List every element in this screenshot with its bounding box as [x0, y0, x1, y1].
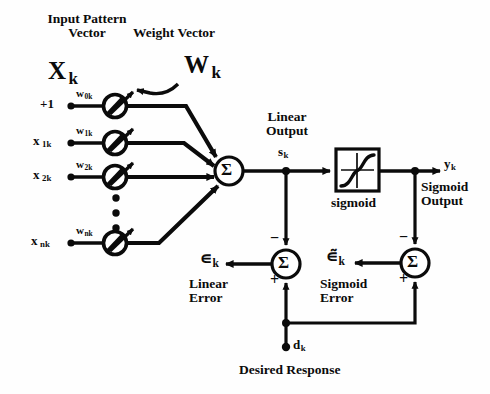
summer-glyph-linear-error: Σ	[278, 254, 289, 272]
weight-label-bias-letter: w	[76, 87, 84, 99]
sigmoid-error-plus-sign: +	[399, 271, 408, 288]
linear-error-symbol: ∊k	[200, 250, 219, 270]
desired-response-symbol: dk	[293, 338, 306, 354]
weight-label-bias: w0k	[76, 88, 92, 101]
weight-vector-caption: Weight Vector	[133, 26, 215, 40]
desired-branch-dot	[282, 319, 290, 327]
ellipsis-dot-1	[112, 194, 119, 201]
weight-label-xn: wnk	[76, 225, 93, 238]
linear-output-symbol: sk	[278, 145, 288, 161]
weighted-path-bias	[127, 106, 216, 157]
input-signal-xn-sub: nk	[38, 239, 50, 249]
input-signal-bias-text: +1	[40, 96, 54, 111]
desired-response-caption: Desired Response	[239, 363, 340, 377]
sigmoid-error-epsilon: ∊̃	[326, 247, 338, 266]
ellipsis-dot-2	[112, 209, 119, 216]
linear-error-minus-sign: −	[270, 230, 279, 247]
sigmoid-output-line1: Sigmoid	[421, 180, 468, 194]
weight-label-x2-sub: 2k	[84, 163, 92, 172]
linear-output-line2: Output	[256, 124, 318, 138]
sigmoid-box-caption: sigmoid	[331, 196, 376, 210]
input-vector-sub: k	[66, 69, 78, 88]
sigmoid-error-sub: k	[338, 255, 345, 268]
sigmoid-output-letter: y	[444, 156, 451, 171]
sigmoid-output-symbol: yk	[444, 157, 456, 173]
input-signal-xn: xnk	[31, 234, 50, 250]
input-dot-bias	[67, 102, 74, 109]
linear-error-sub: k	[212, 257, 219, 270]
input-signal-x2: x2k	[33, 168, 51, 184]
weighted-path-x1	[127, 143, 214, 166]
weight-label-bias-sub: 0k	[84, 92, 92, 101]
linear-error-line2: Error	[189, 291, 228, 305]
linear-output-caption: Linear Output	[256, 110, 318, 139]
sigmoid-output-line2: Output	[421, 194, 468, 208]
linear-error-caption: Linear Error	[189, 277, 228, 306]
linear-error-plus-sign: +	[270, 272, 279, 289]
ellipsis-dots	[112, 194, 119, 231]
input-signal-bias: +1	[40, 97, 54, 111]
sigmoid-error-symbol: ∊̃k	[326, 248, 345, 268]
weight-label-x2-letter: w	[76, 158, 84, 170]
weight-vector-sub: k	[209, 63, 221, 82]
weight-label-x1-letter: w	[76, 124, 84, 136]
weighted-paths-group	[127, 106, 218, 243]
input-dot-xn	[67, 239, 74, 246]
input-dot-x1	[67, 139, 74, 146]
ellipsis-dot-3	[112, 224, 119, 231]
input-signal-x1: x1k	[33, 134, 51, 150]
sigmoid-output-caption: Sigmoid Output	[421, 180, 468, 209]
neural-network-diagram: Input Pattern Vector Xk Weight Vector Wk…	[0, 0, 490, 394]
linear-error-line1: Linear	[189, 277, 228, 291]
input-signal-x1-sub: 1k	[40, 139, 52, 149]
desired-terminal-dot	[282, 343, 290, 351]
input-signal-x2-sub: 2k	[40, 173, 52, 183]
sigmoid-error-minus-sign: −	[399, 229, 408, 246]
weight-label-x2: w2k	[76, 159, 92, 172]
summer-glyph-main: Σ	[221, 161, 232, 179]
input-dot-x2	[67, 173, 74, 180]
linear-output-line1: Linear	[256, 110, 318, 124]
input-vector-symbol: Xk	[48, 58, 78, 88]
weighted-path-xn	[127, 186, 218, 243]
desired-response-sub: k	[300, 343, 305, 353]
weight-vector-letter: W	[184, 51, 209, 78]
sigmoid-output-sub: k	[451, 162, 456, 172]
input-vector-letter: X	[48, 57, 66, 84]
sigmoid-error-line1: Sigmoid	[320, 277, 367, 291]
linear-error-epsilon: ∊	[200, 249, 212, 268]
input-signal-xn-text: x	[31, 233, 38, 248]
summer-glyph-sigmoid-error: Σ	[407, 253, 418, 271]
linear-output-sub: k	[283, 150, 288, 160]
weight-vector-symbol: Wk	[184, 52, 221, 82]
weight-label-x1-sub: 1k	[84, 129, 92, 138]
sigmoid-error-line2: Error	[320, 291, 367, 305]
weight-label-xn-sub: nk	[84, 229, 93, 238]
input-terminal-dots	[67, 102, 74, 246]
sigmoid-error-caption: Sigmoid Error	[320, 277, 367, 306]
input-signal-x2-text: x	[33, 167, 40, 182]
weight-label-xn-letter: w	[76, 224, 84, 236]
weight-vector-pointer	[137, 84, 178, 94]
input-signal-x1-text: x	[33, 133, 40, 148]
weight-label-x1: w1k	[76, 125, 92, 138]
sigmoid-block	[336, 149, 379, 191]
